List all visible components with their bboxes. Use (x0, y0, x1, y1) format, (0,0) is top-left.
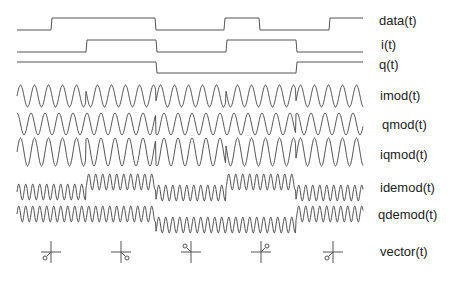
label-qmod: qmod(t) (382, 118, 427, 131)
imod-waveform (17, 85, 363, 107)
i-waveform (17, 40, 363, 52)
label-idemod: idemod(t) (380, 181, 435, 194)
label-q: q(t) (379, 58, 399, 71)
label-iqmod: iqmod(t) (380, 148, 428, 161)
vector-constellation-icon (41, 241, 61, 263)
qdemod-waveform (17, 206, 363, 233)
vector-constellation-icon (111, 241, 131, 263)
label-vector: vector(t) (380, 245, 428, 258)
q-waveform (17, 62, 363, 73)
vector-constellation-icon (251, 241, 271, 263)
vector-constellation-icon (181, 241, 201, 263)
data-waveform (17, 18, 363, 30)
label-imod: imod(t) (380, 89, 420, 102)
label-i: i(t) (381, 38, 396, 51)
label-qdemod: qdemod(t) (378, 208, 437, 221)
iqmod-waveform (17, 138, 363, 166)
qmod-waveform (17, 113, 363, 135)
label-data: data(t) (379, 14, 417, 27)
vector-constellation-icon (323, 241, 343, 263)
signal-diagram: data(t) i(t) q(t) imod(t) qmod(t) iqmod(… (0, 0, 455, 281)
idemod-waveform (17, 174, 363, 201)
